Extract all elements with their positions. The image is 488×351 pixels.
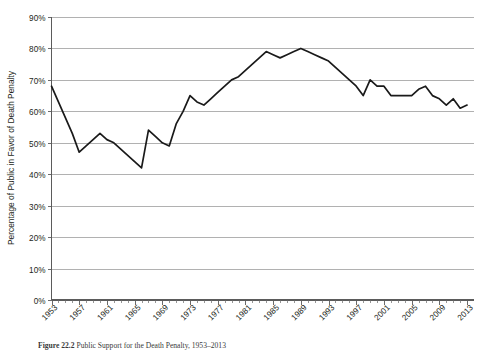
x-tick-label: 2013 bbox=[456, 303, 476, 323]
x-tick-label: 1981 bbox=[234, 303, 254, 323]
x-tick-label: 1993 bbox=[317, 303, 337, 323]
y-tick-label: 20% bbox=[29, 234, 45, 243]
y-tick-label: 0% bbox=[34, 297, 46, 306]
figure-caption-body: Public Support for the Death Penalty, 19… bbox=[76, 341, 225, 350]
y-axis-title: Percentage of Public in Favor of Death P… bbox=[6, 70, 16, 245]
x-tick-label: 1973 bbox=[179, 303, 199, 323]
x-tick-label: 1969 bbox=[151, 303, 171, 323]
x-tick-label: 1957 bbox=[68, 303, 88, 323]
x-tick-label: 1985 bbox=[262, 303, 282, 323]
y-tick-label: 50% bbox=[29, 140, 45, 149]
y-tick-label: 60% bbox=[29, 108, 45, 117]
y-tick-label: 80% bbox=[29, 45, 45, 54]
y-axis-tick-labels: 0%10%20%30%40%50%60%70%80%90% bbox=[29, 14, 45, 306]
x-tick-label: 1989 bbox=[290, 303, 310, 323]
x-tick-label: 1997 bbox=[345, 303, 365, 323]
y-tick-label: 70% bbox=[29, 77, 45, 86]
figure-caption: Figure 22.2 Public Support for the Death… bbox=[38, 341, 478, 351]
y-tick-label: 40% bbox=[29, 171, 45, 180]
y-tick-label: 10% bbox=[29, 266, 45, 275]
x-tick-label: 1965 bbox=[123, 303, 143, 323]
x-tick-marks-group bbox=[53, 300, 468, 305]
y-tick-label: 30% bbox=[29, 203, 45, 212]
x-tick-label: 2009 bbox=[428, 303, 448, 323]
figure-caption-label: Figure 22.2 bbox=[38, 341, 75, 350]
y-tick-label: 90% bbox=[29, 14, 45, 23]
x-tick-label: 1961 bbox=[96, 303, 116, 323]
x-tick-label: 2001 bbox=[373, 303, 393, 323]
support-percentage-line bbox=[52, 48, 468, 167]
figure-container: 0%10%20%30%40%50%60%70%80%90% 1953195719… bbox=[0, 0, 488, 351]
x-tick-label: 1977 bbox=[206, 303, 226, 323]
x-tick-label: 1953 bbox=[40, 303, 60, 323]
x-tick-label: 2005 bbox=[400, 303, 420, 323]
x-axis-tick-labels: 1953195719611965196919731977198119851989… bbox=[40, 303, 475, 323]
death-penalty-support-line-chart: 0%10%20%30%40%50%60%70%80%90% 1953195719… bbox=[0, 0, 488, 351]
